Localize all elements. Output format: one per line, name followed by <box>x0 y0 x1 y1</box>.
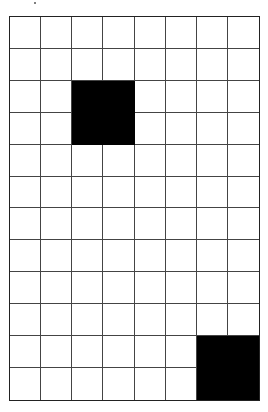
grid-cell <box>135 208 166 240</box>
grid-cell <box>103 208 134 240</box>
grid-cell <box>135 304 166 336</box>
grid-cell <box>41 240 72 272</box>
grid-cell <box>41 304 72 336</box>
grid-cell <box>135 49 166 81</box>
grid-cell <box>41 177 72 209</box>
grid-cell <box>103 272 134 304</box>
grid-cell-filled <box>72 113 103 145</box>
grid-cell <box>197 145 228 177</box>
grid-cell <box>10 145 41 177</box>
grid-cell <box>166 368 197 400</box>
grid-cell <box>197 240 228 272</box>
grid-cell <box>41 368 72 400</box>
grid-cell <box>10 240 41 272</box>
grid-cell <box>103 304 134 336</box>
grid-cell <box>41 17 72 49</box>
grid-cell <box>72 336 103 368</box>
grid-cell <box>135 336 166 368</box>
grid-cell <box>41 113 72 145</box>
grid-cell <box>197 272 228 304</box>
grid-cell <box>10 81 41 113</box>
grid-cell <box>72 208 103 240</box>
grid-cell-filled <box>228 368 259 400</box>
grid-cell <box>166 272 197 304</box>
grid-cell <box>10 113 41 145</box>
grid-cell <box>228 145 259 177</box>
grid-cell <box>103 17 134 49</box>
grid-cell <box>103 368 134 400</box>
grid-cell-filled <box>103 113 134 145</box>
grid-cell-filled <box>103 81 134 113</box>
grid-cell <box>166 208 197 240</box>
grid-cell <box>72 17 103 49</box>
grid-cell-filled <box>72 81 103 113</box>
grid-cell <box>166 177 197 209</box>
grid-cell <box>135 17 166 49</box>
grid-cell <box>41 145 72 177</box>
grid-cell <box>166 49 197 81</box>
grid-cell <box>228 113 259 145</box>
grid-cell <box>10 336 41 368</box>
grid-cell <box>166 113 197 145</box>
grid-cell <box>10 177 41 209</box>
grid-cell <box>197 177 228 209</box>
grid-cell <box>10 368 41 400</box>
grid-cell <box>72 145 103 177</box>
grid-cell <box>166 17 197 49</box>
square-grid <box>9 16 260 401</box>
grid-cell <box>197 208 228 240</box>
grid-cell <box>10 272 41 304</box>
grid-cell <box>166 145 197 177</box>
grid-cell <box>228 81 259 113</box>
grid-cell <box>197 49 228 81</box>
grid-cell <box>166 81 197 113</box>
grid-cell <box>10 49 41 81</box>
grid-cell <box>72 240 103 272</box>
stray-dot-mark <box>34 2 36 4</box>
grid-cell <box>103 336 134 368</box>
grid-cell <box>72 177 103 209</box>
grid-cell-filled <box>197 368 228 400</box>
grid-cell <box>103 177 134 209</box>
grid-cell <box>10 17 41 49</box>
grid-cell <box>72 272 103 304</box>
grid-cell <box>135 368 166 400</box>
grid-cell <box>197 17 228 49</box>
grid-cell <box>228 304 259 336</box>
grid-cell <box>72 368 103 400</box>
grid-cell <box>228 208 259 240</box>
grid-cell <box>166 336 197 368</box>
grid-cell <box>228 49 259 81</box>
grid-cell <box>135 240 166 272</box>
grid-cell <box>166 304 197 336</box>
grid-cell <box>41 81 72 113</box>
grid-cell <box>166 240 197 272</box>
grid-cell <box>197 304 228 336</box>
grid-cell <box>135 81 166 113</box>
grid-cell <box>228 240 259 272</box>
grid-cell <box>197 81 228 113</box>
grid-cell <box>72 49 103 81</box>
grid-cell <box>197 113 228 145</box>
grid-cell <box>135 145 166 177</box>
grid-cell-filled <box>197 336 228 368</box>
grid-cell <box>10 208 41 240</box>
grid-cell <box>135 272 166 304</box>
grid-cell-filled <box>228 336 259 368</box>
grid-cell <box>41 272 72 304</box>
grid-cell <box>10 304 41 336</box>
grid-cell <box>135 177 166 209</box>
grid-cell <box>103 145 134 177</box>
grid-cell <box>103 49 134 81</box>
grid-cell <box>228 177 259 209</box>
grid-cell <box>41 49 72 81</box>
grid-cell <box>41 208 72 240</box>
grid-cell <box>41 336 72 368</box>
grid-cell <box>228 272 259 304</box>
grid-cell <box>72 304 103 336</box>
grid-cell <box>135 113 166 145</box>
grid-cell <box>228 17 259 49</box>
grid-cell <box>103 240 134 272</box>
